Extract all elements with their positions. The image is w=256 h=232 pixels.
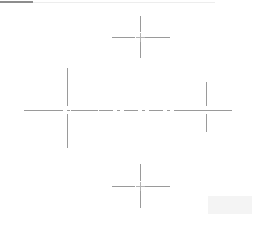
crosshair-layer xyxy=(24,16,232,208)
crosshair-right xyxy=(186,82,232,132)
crosshair-bottom xyxy=(112,164,170,208)
crosshair-left xyxy=(24,68,98,148)
technical-drawing xyxy=(0,0,256,232)
crosshair-top xyxy=(112,16,170,58)
corner-smudge xyxy=(208,196,252,214)
drawing-canvas: Registration Mark Alignment Sheet horizo… xyxy=(0,0,256,232)
